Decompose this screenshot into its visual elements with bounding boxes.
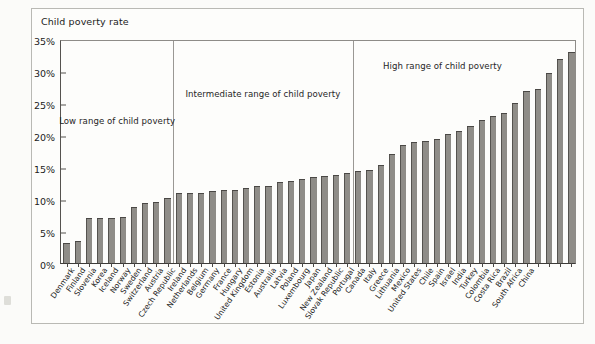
bar (187, 193, 193, 263)
plot-area: 0%5%10%15%20%25%30%35% Low range of chil… (60, 40, 576, 264)
bar (501, 113, 507, 263)
bar (512, 103, 518, 263)
bar (445, 134, 451, 263)
bar (164, 198, 170, 263)
bar (108, 218, 114, 263)
bar (535, 89, 541, 263)
bar (75, 241, 81, 263)
y-axis-tick-label: 5% (40, 228, 61, 239)
bar (142, 203, 148, 263)
bar (568, 52, 574, 263)
bar (422, 141, 428, 263)
bar (400, 145, 406, 263)
bar (63, 243, 69, 263)
y-axis-title: Child poverty rate (41, 16, 129, 27)
bar (153, 202, 159, 263)
bar (310, 177, 316, 263)
bar (490, 116, 496, 263)
bar (277, 182, 283, 263)
y-axis-tick-label: 25% (34, 100, 61, 111)
scan-margin-mark (4, 296, 11, 305)
figure-canvas: Child poverty rate 0%5%10%15%20%25%30%35… (0, 0, 595, 344)
bar (557, 59, 563, 263)
y-axis-tick-label: 0% (40, 260, 61, 271)
bar (243, 188, 249, 263)
bar (176, 193, 182, 263)
bar (389, 154, 395, 263)
bar (344, 173, 350, 263)
bar (265, 186, 271, 263)
bar (467, 126, 473, 263)
y-axis-tick-label: 30% (34, 68, 61, 79)
bar (221, 190, 227, 263)
bar (366, 170, 372, 263)
bar (120, 217, 126, 263)
bar (456, 131, 462, 263)
y-axis-tick-label: 15% (34, 164, 61, 175)
bar (434, 139, 440, 263)
bar (254, 186, 260, 263)
bar (131, 207, 137, 263)
bar (523, 91, 529, 263)
bar (97, 218, 103, 263)
y-axis-tick-label: 10% (34, 196, 61, 207)
bar (333, 175, 339, 263)
bar (321, 176, 327, 263)
bar (198, 193, 204, 263)
y-axis-tick-label: 20% (34, 132, 61, 143)
bar (288, 181, 294, 263)
bar-series (61, 41, 575, 263)
y-axis-tick-label: 35% (34, 36, 61, 47)
bar (299, 179, 305, 263)
bar (411, 142, 417, 263)
bar (546, 73, 552, 263)
x-axis-labels: DenmarkFinlandSloveniaKoreaIcelandNorway… (60, 266, 576, 340)
bar (86, 218, 92, 263)
bar (209, 191, 215, 263)
bar (232, 190, 238, 263)
bar (378, 165, 384, 263)
bar (479, 120, 485, 263)
bar (355, 171, 361, 263)
